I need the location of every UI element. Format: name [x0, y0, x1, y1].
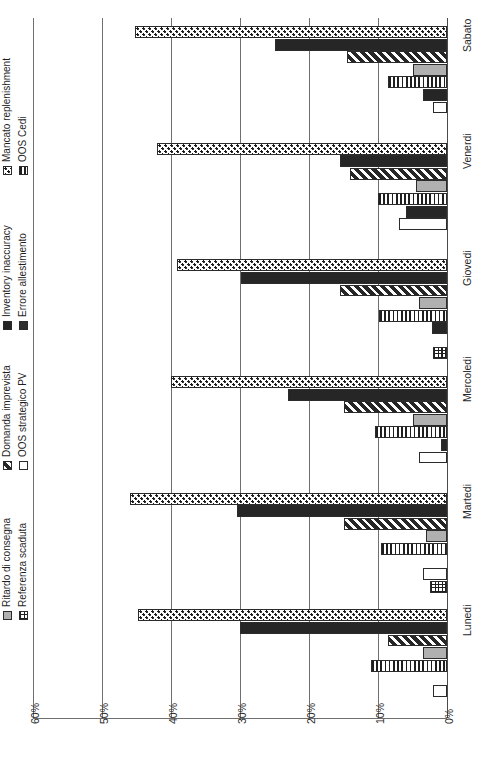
legend-entry-domanda-imprevista[interactable]: Domanda imprevista [2, 365, 12, 470]
tick-label-30: 30% [236, 703, 248, 724]
bar-sabato-domanda-imprevista [347, 51, 447, 63]
legend-entry-errore-allestimento[interactable]: Errore allestimento [18, 233, 28, 330]
legend-swatch-white-icon [19, 461, 28, 470]
legend-swatch-darkgray-icon [19, 321, 28, 330]
category-label-venerdi: Venerdi [461, 133, 473, 169]
bar-mercoledi-oos-strategico-pv [419, 452, 447, 464]
legend-label: Inventory inaccuracy [2, 225, 12, 317]
legend-label: Errore allestimento [18, 233, 28, 317]
bar-martedi-referenza-scaduta [430, 581, 447, 593]
legend-entry-oos-strategico-pv[interactable]: OOS strategico PV [18, 373, 28, 470]
gridline-60 [33, 18, 34, 718]
bar-mercoledi-ritardo-di-consegna [413, 414, 448, 426]
legend-swatch-black-icon [3, 321, 12, 330]
bar-lunedi-domanda-imprevista [388, 635, 447, 647]
bar-sabato-mancato-replenishment [135, 26, 447, 38]
bar-venerdi-domanda-imprevista [350, 168, 447, 180]
bar-sabato-oos-strategico-pv [433, 102, 447, 114]
bar-venerdi-mancato-replenishment [157, 143, 447, 155]
bar-lunedi-oos-strategico-pv [433, 685, 447, 697]
bar-martedi-oos-strategico-pv [423, 568, 447, 580]
bar-martedi-oos-cedi [381, 543, 447, 555]
tick-label-10: 10% [374, 703, 386, 724]
bar-lunedi-inventory-inaccuracy [240, 622, 447, 634]
gridline-50 [102, 18, 103, 718]
category-label-sabato: Sabato [461, 19, 473, 52]
bar-venerdi-inventory-inaccuracy [340, 155, 447, 167]
bar-venerdi-ritardo-di-consegna [416, 180, 447, 192]
bar-giovedi-ritardo-di-consegna [419, 297, 447, 309]
category-label-giovedi: Giovedi [461, 250, 473, 286]
bar-mercoledi-domanda-imprevista [344, 401, 448, 413]
bar-giovedi-inventory-inaccuracy [241, 272, 447, 284]
bar-lunedi-oos-cedi [371, 660, 447, 672]
legend-swatch-vlines-icon [19, 166, 28, 175]
category-axis-line [447, 18, 448, 718]
bar-lunedi-ritardo-di-consegna [423, 647, 447, 659]
legend-swatch-grid-icon [19, 611, 28, 620]
legend-swatch-diagonal-icon [3, 461, 12, 470]
legend-label: Ritardo di consegna [2, 518, 12, 607]
chart-root: Mancato replenishmentOOS CediInventory i… [0, 0, 491, 765]
bar-mercoledi-oos-cedi [375, 426, 447, 438]
bar-venerdi-errore-allestimento [406, 206, 447, 218]
category-label-mercoledi: Mercoledi [461, 357, 473, 403]
bar-giovedi-referenza-scaduta [433, 347, 447, 359]
legend-swatch-gray-icon [3, 611, 12, 620]
bar-mercoledi-errore-allestimento [441, 439, 447, 451]
tick-label-20: 20% [305, 703, 317, 724]
bar-martedi-domanda-imprevista [344, 518, 448, 530]
tick-label-40: 40% [167, 703, 179, 724]
bar-sabato-inventory-inaccuracy [275, 39, 448, 51]
bar-martedi-inventory-inaccuracy [237, 505, 447, 517]
legend-entry-referenza-scaduta[interactable]: Referenza scaduta [18, 523, 28, 620]
bar-venerdi-oos-cedi [378, 193, 447, 205]
legend-label: OOS strategico PV [18, 373, 28, 457]
tick-label-60: 60% [29, 703, 41, 724]
bar-martedi-mancato-replenishment [130, 493, 447, 505]
legend-entry-ritardo-di-consegna[interactable]: Ritardo di consegna [2, 518, 12, 620]
bar-lunedi-mancato-replenishment [138, 609, 447, 621]
bar-martedi-ritardo-di-consegna [426, 530, 447, 542]
tick-label-50: 50% [98, 703, 110, 724]
legend-label: OOS Cedi [18, 116, 28, 162]
bar-sabato-ritardo-di-consegna [413, 64, 448, 76]
bar-mercoledi-inventory-inaccuracy [288, 389, 447, 401]
legend-swatch-checker-icon [3, 166, 12, 175]
bar-sabato-errore-allestimento [423, 89, 447, 101]
bar-giovedi-mancato-replenishment [177, 259, 447, 271]
legend-entry-mancato-replenishment[interactable]: Mancato replenishment [2, 58, 12, 175]
bar-giovedi-oos-cedi [379, 310, 447, 322]
legend-entry-oos-cedi[interactable]: OOS Cedi [18, 116, 28, 175]
bar-giovedi-domanda-imprevista [340, 285, 447, 297]
plot-area [33, 18, 447, 718]
bar-giovedi-errore-allestimento [432, 322, 447, 334]
category-label-lunedi: Lunedi [461, 604, 473, 636]
tick-label-0: 0% [443, 709, 455, 724]
bar-sabato-oos-cedi [388, 76, 447, 88]
bar-mercoledi-mancato-replenishment [171, 376, 447, 388]
bar-venerdi-oos-strategico-pv [399, 218, 447, 230]
chart-legend: Mancato replenishmentOOS CediInventory i… [0, 0, 33, 765]
legend-label: Mancato replenishment [2, 58, 12, 162]
category-label-martedi: Martedi [461, 484, 473, 519]
legend-entry-inventory-inaccuracy[interactable]: Inventory inaccuracy [2, 225, 12, 330]
legend-label: Referenza scaduta [18, 523, 28, 607]
legend-label: Domanda imprevista [2, 365, 12, 457]
